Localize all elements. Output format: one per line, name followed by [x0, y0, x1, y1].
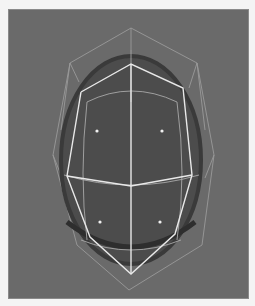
vertex-point	[98, 220, 101, 223]
vertex-point	[160, 129, 163, 132]
viewport-canvas[interactable]	[9, 10, 249, 299]
vertex-point	[95, 129, 98, 132]
3d-viewport[interactable]	[8, 9, 249, 299]
vertex-point	[158, 220, 161, 223]
